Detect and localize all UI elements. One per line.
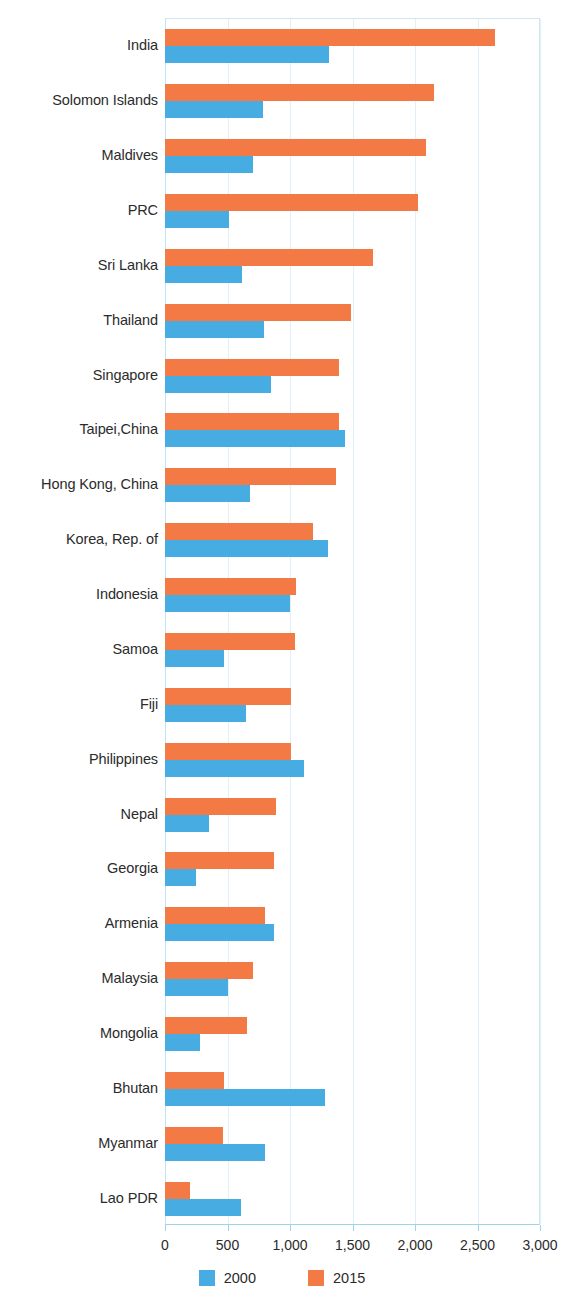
tick-mark xyxy=(228,1225,229,1231)
bar-row xyxy=(165,19,539,74)
bar-2000 xyxy=(165,266,242,283)
category-label: Korea, Rep. of xyxy=(0,531,158,547)
x-tick-label: 1,500 xyxy=(335,1237,370,1253)
bar-row xyxy=(165,842,539,897)
legend-item[interactable]: 2015 xyxy=(308,1270,365,1286)
bar-row xyxy=(165,568,539,623)
legend-label: 2015 xyxy=(333,1270,365,1286)
bar-2015 xyxy=(165,413,339,430)
category-label: Hong Kong, China xyxy=(0,476,158,492)
category-label: Lao PDR xyxy=(0,1190,158,1206)
bar-2000 xyxy=(165,211,229,228)
bar-2000 xyxy=(165,705,246,722)
bar-row xyxy=(165,787,539,842)
category-label: Maldives xyxy=(0,147,158,163)
bar-row xyxy=(165,184,539,239)
bar-row xyxy=(165,458,539,513)
x-axis-tick-labels: 05001,0001,5002,0002,5003,000 xyxy=(0,1237,564,1259)
bar-row xyxy=(165,952,539,1007)
gridline xyxy=(540,19,541,1224)
bar-2000 xyxy=(165,1199,241,1216)
bar-2015 xyxy=(165,29,495,46)
bar-2000 xyxy=(165,540,328,557)
bar-2015 xyxy=(165,852,274,869)
category-label: Nepal xyxy=(0,806,158,822)
category-label: Philippines xyxy=(0,751,158,767)
bar-2000 xyxy=(165,1144,265,1161)
bar-2015 xyxy=(165,907,265,924)
bar-2000 xyxy=(165,650,224,667)
bar-2000 xyxy=(165,595,290,612)
bar-2000 xyxy=(165,430,345,447)
category-label: Armenia xyxy=(0,915,158,931)
bar-2015 xyxy=(165,249,373,266)
x-tick-label: 2,000 xyxy=(397,1237,432,1253)
bar-2000 xyxy=(165,1034,200,1051)
bar-2000 xyxy=(165,1089,325,1106)
x-tick-label: 1,000 xyxy=(272,1237,307,1253)
plot-area xyxy=(165,18,540,1225)
bar-2015 xyxy=(165,962,253,979)
bar-row xyxy=(165,293,539,348)
x-tick-label: 500 xyxy=(216,1237,239,1253)
category-axis-labels: IndiaSolomon IslandsMaldivesPRCSri Lanka… xyxy=(0,18,158,1225)
bar-2015 xyxy=(165,359,339,376)
category-label: Thailand xyxy=(0,312,158,328)
bar-row xyxy=(165,1116,539,1171)
bar-row xyxy=(165,1171,539,1226)
tick-mark xyxy=(165,1225,166,1231)
bar-2000 xyxy=(165,924,274,941)
x-tick-label: 2,500 xyxy=(460,1237,495,1253)
bar-rows xyxy=(165,19,539,1224)
bar-row xyxy=(165,732,539,787)
bar-2000 xyxy=(165,760,304,777)
chart-legend: 20002015 xyxy=(0,1270,564,1286)
horizontal-bar-chart: IndiaSolomon IslandsMaldivesPRCSri Lanka… xyxy=(0,0,564,1305)
bar-row xyxy=(165,348,539,403)
bar-2000 xyxy=(165,101,263,118)
bar-2000 xyxy=(165,979,228,996)
tick-mark xyxy=(478,1225,479,1231)
x-axis-tick-marks xyxy=(165,1225,540,1231)
bar-2000 xyxy=(165,485,250,502)
category-label: Fiji xyxy=(0,696,158,712)
legend-label: 2000 xyxy=(224,1270,256,1286)
category-label: Myanmar xyxy=(0,1135,158,1151)
tick-mark xyxy=(290,1225,291,1231)
bar-row xyxy=(165,129,539,184)
bar-2000 xyxy=(165,815,209,832)
category-label: Samoa xyxy=(0,641,158,657)
category-label: Mongolia xyxy=(0,1025,158,1041)
category-label: Bhutan xyxy=(0,1080,158,1096)
bar-2015 xyxy=(165,1017,247,1034)
bar-2015 xyxy=(165,523,313,540)
bar-2000 xyxy=(165,46,329,63)
bar-2015 xyxy=(165,743,291,760)
bar-row xyxy=(165,74,539,129)
bar-row xyxy=(165,513,539,568)
category-label: Sri Lanka xyxy=(0,257,158,273)
legend-swatch-icon xyxy=(199,1270,215,1286)
category-label: PRC xyxy=(0,202,158,218)
bar-2015 xyxy=(165,578,296,595)
bar-row xyxy=(165,238,539,293)
bar-2015 xyxy=(165,304,351,321)
bar-row xyxy=(165,623,539,678)
legend-item[interactable]: 2000 xyxy=(199,1270,256,1286)
bar-2000 xyxy=(165,321,264,338)
bar-2015 xyxy=(165,1127,223,1144)
bar-row xyxy=(165,1007,539,1062)
bar-2015 xyxy=(165,468,336,485)
bar-2015 xyxy=(165,1072,224,1089)
category-label: Taipei,China xyxy=(0,421,158,437)
bar-2015 xyxy=(165,688,291,705)
category-label: Solomon Islands xyxy=(0,92,158,108)
tick-mark xyxy=(540,1225,541,1231)
category-label: Malaysia xyxy=(0,970,158,986)
category-label: Singapore xyxy=(0,367,158,383)
bar-2015 xyxy=(165,633,295,650)
x-tick-label: 0 xyxy=(161,1237,169,1253)
bar-2015 xyxy=(165,139,426,156)
category-label: Indonesia xyxy=(0,586,158,602)
bar-2000 xyxy=(165,376,271,393)
